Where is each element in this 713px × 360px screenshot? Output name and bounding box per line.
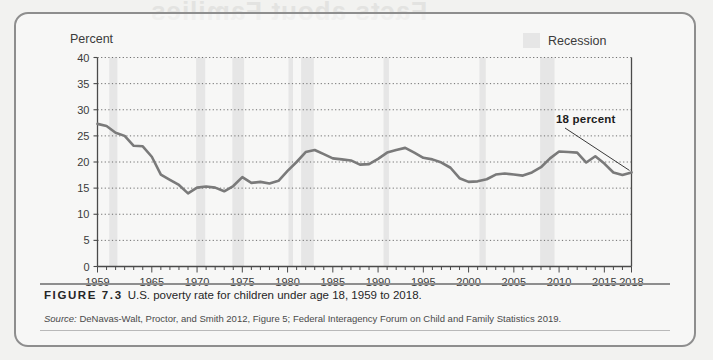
chart-area: Percent Recession 0510152025303540195919… — [0, 0, 713, 360]
y-tick-label: 35 — [77, 78, 89, 90]
legend-swatch-recession — [523, 33, 540, 48]
y-tick-label: 10 — [77, 208, 89, 220]
y-tick-label: 20 — [77, 156, 89, 168]
caption-divider-bottom — [40, 330, 670, 331]
y-tick-label: 25 — [77, 130, 89, 142]
figure-caption-text: U.S. poverty rate for children under age… — [128, 289, 422, 301]
x-tick-label: 1995 — [411, 276, 435, 288]
x-tick-label: 2005 — [502, 276, 526, 288]
x-tick-label: 1975 — [230, 276, 254, 288]
y-tick-label: 0 — [83, 261, 89, 273]
x-tick-label: 1985 — [321, 276, 345, 288]
source-text: DeNavas-Walt, Proctor, and Smith 2012, F… — [77, 313, 561, 324]
figure-number: FIGURE 7.3 — [44, 289, 123, 301]
annotation-18-percent: 18 percent — [556, 113, 616, 125]
figure-caption: FIGURE 7.3U.S. poverty rate for children… — [44, 289, 422, 301]
annotation-leader-line — [565, 128, 630, 170]
recession-band — [196, 58, 205, 267]
x-tick-label: 2010 — [547, 276, 571, 288]
x-tick-label: 1980 — [275, 276, 299, 288]
legend: Recession — [523, 33, 606, 48]
legend-label-recession: Recession — [548, 34, 606, 48]
x-tick-label: 2015 — [592, 276, 616, 288]
x-tick-label: 2000 — [456, 276, 480, 288]
x-tick-label: 2018 — [619, 276, 643, 288]
poverty-rate-line-chart: 0510152025303540195919651970197519801985… — [0, 0, 713, 360]
x-tick-label: 1990 — [366, 276, 390, 288]
caption-divider-top — [40, 283, 670, 285]
figure-source: Source: DeNavas-Walt, Proctor, and Smith… — [44, 313, 561, 324]
y-tick-label: 5 — [83, 234, 89, 246]
y-tick-label: 30 — [77, 104, 89, 116]
y-axis-label: Percent — [70, 32, 113, 46]
y-tick-label: 40 — [77, 52, 89, 64]
y-tick-label: 15 — [77, 182, 89, 194]
x-tick-label: 1965 — [140, 276, 164, 288]
x-tick-label: 1970 — [185, 276, 209, 288]
x-tick-label: 1959 — [85, 276, 109, 288]
recession-band — [479, 58, 485, 267]
source-label: Source: — [44, 313, 77, 324]
